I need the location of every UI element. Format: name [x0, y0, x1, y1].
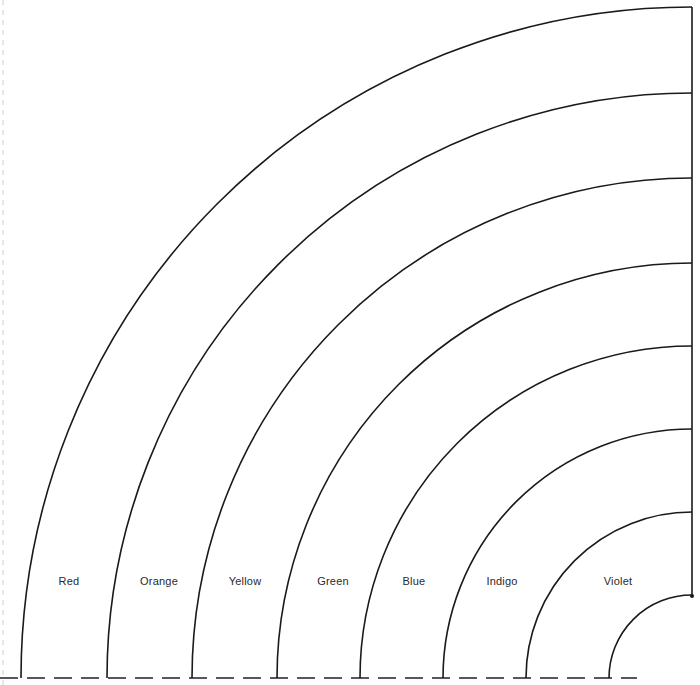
band-label-yellow: Yellow [229, 575, 262, 587]
band-label-red: Red [59, 575, 80, 587]
arc-red-outer [21, 7, 692, 678]
rainbow-template-diagram: Red Orange Yellow Green Blue Indigo Viol… [0, 0, 700, 685]
band-label-violet: Violet [604, 575, 633, 587]
band-label-orange: Orange [140, 575, 178, 587]
arc-violet-inner [609, 595, 692, 678]
band-label-indigo: Indigo [486, 575, 517, 587]
band-label-green: Green [317, 575, 349, 587]
arc-indigo-outer [443, 429, 692, 678]
arc-orange-outer [107, 93, 692, 678]
arc-blue-outer [360, 346, 692, 678]
arc-yellow-outer [192, 178, 692, 678]
arc-green-outer [277, 263, 692, 678]
arc-violet-outer [526, 512, 692, 678]
band-label-blue: Blue [403, 575, 426, 587]
rainbow-arcs-canvas [0, 0, 700, 685]
